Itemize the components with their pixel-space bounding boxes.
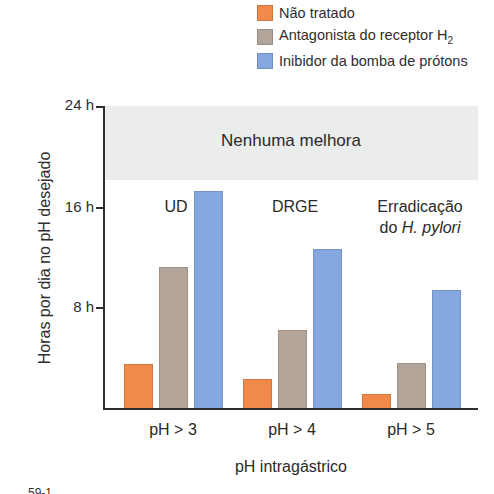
bar-h2-ph4 [278,330,307,408]
x-category-ph4: pH > 4 [232,421,352,439]
bar-h2-ph3 [159,267,188,408]
bar-ppi-ph4 [313,249,342,408]
annotation-drge: DRGE [255,196,335,217]
y-tick-label-24: 24 h [34,96,94,113]
no-improvement-label: Nenhuma melhora [104,131,478,151]
bar-untreated-ph5 [362,394,391,408]
bar-untreated-ph3 [124,364,153,408]
legend-item-ppi: Inibidor da bomba de prótons [257,52,468,69]
bar-ppi-ph5 [432,290,461,408]
y-tick-16 [96,207,104,209]
y-axis-label: Horas por dia no pH desejado [36,152,54,365]
legend-item-untreated: Não tratado [257,4,355,21]
x-axis-line [103,408,478,410]
y-axis-line [103,106,105,409]
legend-label: Antagonista do receptor H2 [279,27,453,46]
legend-label: Inibidor da bomba de prótons [279,53,468,69]
y-tick-24 [96,106,104,108]
x-category-ph5: pH > 5 [351,421,471,439]
legend-item-h2-antagonist: Antagonista do receptor H2 [257,28,453,45]
bar-h2-ph5 [397,363,426,408]
legend-swatch-ppi [257,53,273,69]
figure-number-fragment: 59-1 [28,486,58,494]
x-axis-label: pH intragástrico [104,458,478,476]
x-category-ph3: pH > 3 [113,421,233,439]
legend-swatch-untreated [257,5,273,21]
annotation-hpylori: Erradicação do H. pylori [365,196,475,238]
bar-ppi-ph3 [194,191,223,408]
bar-untreated-ph4 [243,379,272,408]
legend-swatch-h2-antagonist [257,29,273,45]
y-tick-8 [96,307,104,309]
legend-label: Não tratado [279,5,355,21]
